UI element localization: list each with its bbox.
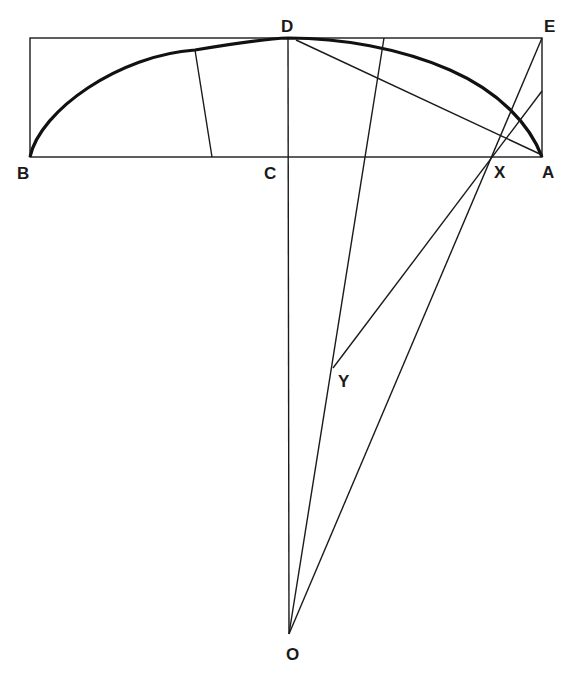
line-YX-extended	[333, 91, 542, 368]
bounding-rectangle	[30, 38, 542, 157]
label-A: A	[542, 163, 554, 182]
label-Y: Y	[338, 372, 350, 391]
line-EO	[289, 38, 542, 634]
axis-line-DO	[288, 38, 289, 634]
line-OY-extended	[289, 38, 384, 634]
label-B: B	[17, 164, 29, 183]
arch-curve	[30, 38, 542, 157]
left-normal-line	[195, 50, 212, 157]
geometric-diagram: B C D E X A Y O	[0, 0, 565, 683]
label-E: E	[544, 17, 555, 36]
label-D: D	[281, 17, 293, 36]
label-C: C	[264, 164, 276, 183]
label-X: X	[494, 163, 506, 182]
label-O: O	[286, 645, 299, 664]
